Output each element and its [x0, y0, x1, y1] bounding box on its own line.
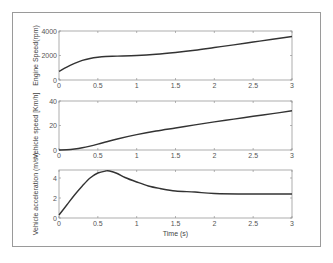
subplot-vehicle-acceleration: 00.511.522.53024Vehicle acceleration (m/… — [32, 153, 294, 235]
y-axis-label: Vehicle speed [Km/h] — [32, 93, 40, 159]
x-tick-label: 2.5 — [248, 152, 258, 159]
x-tick-label: 3 — [290, 152, 294, 159]
figure-canvas: 00.511.522.53020004000Engine Speed(rpm)0… — [0, 0, 333, 263]
x-tick-label: 0 — [57, 220, 61, 227]
y-tick-label: 0 — [53, 215, 57, 222]
x-tick-label: 2.5 — [248, 82, 258, 89]
y-tick-label: 4000 — [41, 28, 57, 35]
axes-box — [59, 101, 292, 150]
data-line — [59, 171, 292, 215]
x-tick-label: 1.5 — [171, 82, 181, 89]
subplot-engine-speed: 00.511.522.53020004000Engine Speed(rpm) — [32, 25, 294, 89]
subplot-vehicle-speed: 00.511.522.5302040Vehicle speed [Km/h] — [32, 93, 294, 159]
x-tick-label: 1 — [135, 82, 139, 89]
x-tick-label: 2 — [212, 152, 216, 159]
x-tick-label: 1.5 — [171, 220, 181, 227]
x-tick-label: 1 — [135, 220, 139, 227]
y-tick-label: 2000 — [41, 52, 57, 59]
y-tick-label: 0 — [53, 77, 57, 84]
y-tick-label: 20 — [49, 122, 57, 129]
x-tick-label: 2 — [212, 82, 216, 89]
x-tick-label: 2 — [212, 220, 216, 227]
data-line — [59, 111, 292, 150]
x-tick-label: 0.5 — [93, 152, 103, 159]
y-tick-label: 4 — [53, 175, 57, 182]
x-tick-label: 0 — [57, 152, 61, 159]
y-tick-label: 40 — [49, 98, 57, 105]
y-tick-label: 0 — [53, 147, 57, 154]
data-line — [59, 37, 292, 72]
y-tick-label: 2 — [53, 195, 57, 202]
x-tick-label: 1.5 — [171, 152, 181, 159]
x-tick-label: 0.5 — [93, 220, 103, 227]
x-tick-label: 0.5 — [93, 82, 103, 89]
x-tick-label: 3 — [290, 82, 294, 89]
x-tick-label: 0 — [57, 82, 61, 89]
axes-box — [59, 31, 292, 80]
y-axis-label: Engine Speed(rpm) — [32, 25, 40, 86]
x-tick-label: 1 — [135, 152, 139, 159]
y-axis-label: Vehicle acceleration (m/s²) — [32, 153, 40, 235]
x-tick-label: 3 — [290, 220, 294, 227]
x-tick-label: 2.5 — [248, 220, 258, 227]
x-axis-label: Time (s) — [163, 230, 188, 238]
